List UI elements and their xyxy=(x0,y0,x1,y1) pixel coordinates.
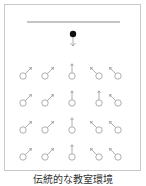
student-icon xyxy=(69,145,75,160)
diagram-caption: 伝統的な教室環境 xyxy=(0,174,146,186)
student-icon xyxy=(42,94,54,106)
student-icon xyxy=(20,94,32,106)
student-icon xyxy=(90,121,102,133)
student-icon xyxy=(20,67,32,79)
student-icon xyxy=(109,94,121,106)
student-icon xyxy=(42,148,54,160)
student-icon xyxy=(109,67,121,79)
student-grid xyxy=(20,64,121,160)
student-icon xyxy=(96,91,102,106)
student-icon xyxy=(109,148,121,160)
classroom-diagram xyxy=(0,0,146,186)
student-icon xyxy=(20,121,32,133)
student-icon xyxy=(109,121,121,133)
student-icon xyxy=(69,91,75,106)
student-icon xyxy=(69,64,75,79)
student-icon xyxy=(42,67,54,79)
student-icon xyxy=(20,148,32,160)
student-icon xyxy=(42,121,54,133)
student-icon xyxy=(90,148,102,160)
teacher-icon xyxy=(70,31,76,46)
student-icon xyxy=(90,67,102,79)
student-icon xyxy=(69,118,75,133)
